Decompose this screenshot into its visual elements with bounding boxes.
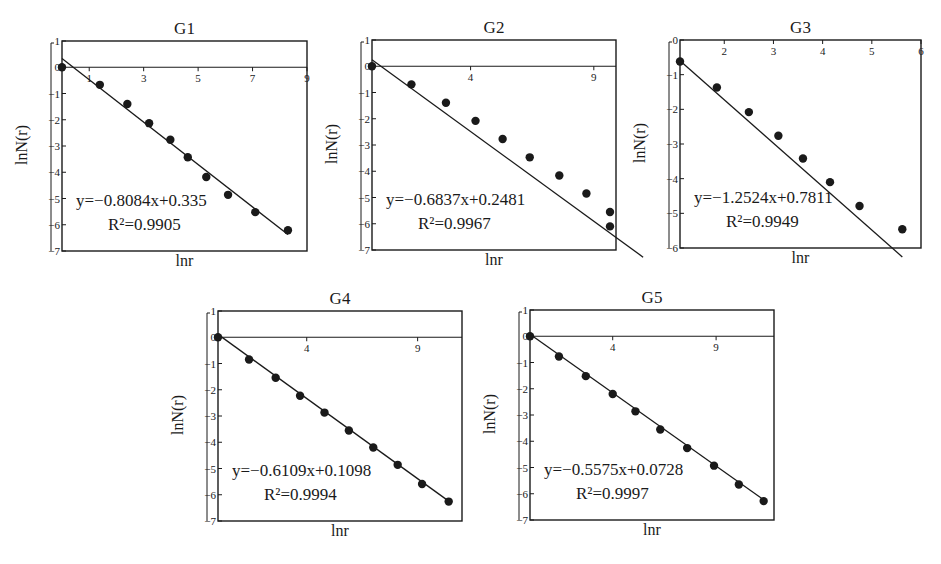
y-tick-label: −3 [666,138,678,150]
data-point [369,443,377,451]
data-point [683,444,691,452]
data-point [759,497,767,505]
y-axis-label: lnN(r) [169,375,187,455]
data-point [166,136,174,144]
x-tick-label: 4 [820,45,826,57]
data-point [442,99,450,107]
data-point [296,392,304,400]
y-axis-label: lnN(r) [13,105,31,185]
chart-panel-g3: 0−1−2−3−4−5−623456 G3 lnN(r) lnr y=−1.25… [680,40,921,248]
data-point [58,63,66,71]
data-point [96,81,104,89]
plot-area: 10−1−2−3−4−5−6−749 [218,311,462,521]
data-point [393,461,401,469]
y-tick-label: −6 [48,219,60,231]
plot-area: 10−1−2−3−4−5−6−749 [530,310,774,520]
x-axis-label: lnr [372,251,616,269]
chart-title: G5 [530,288,774,308]
y-tick-label: −1 [204,358,216,370]
data-point [271,373,279,381]
fit-equation: y=−0.5575x+0.0728 [544,460,683,480]
chart-title: G2 [372,18,616,38]
data-point [555,352,563,360]
y-tick-label: 1 [365,34,371,46]
x-tick-label: 2 [722,45,728,57]
x-tick-label: 3 [771,45,777,57]
x-tick-label: 7 [250,72,256,84]
y-tick-label: −2 [516,383,528,395]
y-tick-label: −7 [48,245,60,257]
y-tick-label: 1 [211,305,217,317]
data-point [606,222,614,230]
y-tick-label: −4 [358,165,370,177]
y-tick-label: −3 [358,139,370,151]
r-squared-label: R²=0.9997 [576,484,649,504]
y-tick-label: −6 [358,218,370,230]
y-tick-label: −3 [516,409,528,421]
r-squared-label: R²=0.9967 [418,214,491,234]
chart-panel-g5: 10−1−2−3−4−5−6−749 G5 lnN(r) lnr y=−0.55… [530,310,774,520]
data-point [676,57,684,65]
y-axis-label: lnN(r) [631,103,649,183]
r-squared-label: R²=0.9905 [108,215,181,235]
x-tick-label: 9 [304,72,310,84]
data-point [202,173,210,181]
y-tick-label: −5 [358,192,370,204]
y-tick-label: −4 [666,173,678,185]
y-tick-label: −2 [48,114,60,126]
chart-title: G1 [62,19,307,39]
data-point [526,332,534,340]
data-point [224,191,232,199]
y-tick-label: −2 [204,384,216,396]
y-tick-label: −6 [516,488,528,500]
fit-equation: y=−0.6109x+0.1098 [232,461,371,481]
data-point [123,100,131,108]
fit-equation: y=−1.2524x+0.7811 [694,188,833,208]
data-point [582,372,590,380]
data-point [245,355,253,363]
y-axis-label: lnN(r) [481,374,499,454]
y-tick-label: −1 [358,87,370,99]
x-axis-label: lnr [680,249,921,267]
fit-line [372,60,643,257]
y-tick-label: −5 [516,462,528,474]
data-point [251,208,259,216]
plot-frame [218,311,462,521]
data-point [418,480,426,488]
chart-title: G3 [680,18,921,38]
y-axis-label: lnN(r) [323,104,341,184]
x-tick-label: 6 [918,45,924,57]
fit-equation: y=−0.8084x+0.335 [76,191,207,211]
y-tick-label: −6 [666,242,678,254]
data-point [284,226,292,234]
x-tick-label: 4 [610,341,616,353]
plot-area: 10−1−2−3−4−5−6−749 [372,40,616,250]
data-point [526,153,534,161]
data-point [471,117,479,125]
x-tick-label: 3 [141,72,147,84]
data-point [735,480,743,488]
data-point [145,119,153,127]
plot-frame [680,40,921,248]
y-tick-label: −1 [48,88,60,100]
y-tick-label: −4 [204,436,216,448]
data-point [774,131,782,139]
x-tick-label: 5 [195,72,201,84]
plot-area: 10−1−2−3−4−5−6−713579 [62,41,307,251]
data-point [320,408,328,416]
chart-title: G4 [218,289,462,309]
y-tick-label: −1 [516,357,528,369]
plot-frame [62,41,307,251]
x-axis-label: lnr [62,252,307,270]
data-point [898,225,906,233]
data-point [368,62,376,70]
data-point [826,178,834,186]
x-axis-label: lnr [218,522,462,540]
data-point [444,497,452,505]
data-point [656,425,664,433]
chart-panel-g2: 10−1−2−3−4−5−6−749 G2 lnN(r) lnr y=−0.68… [372,40,616,250]
data-point [855,202,863,210]
y-tick-label: 1 [523,304,529,316]
chart-panel-g1: 10−1−2−3−4−5−6−713579 G1 lnN(r) lnr y=−0… [62,41,307,251]
x-tick-label: 4 [468,71,474,83]
